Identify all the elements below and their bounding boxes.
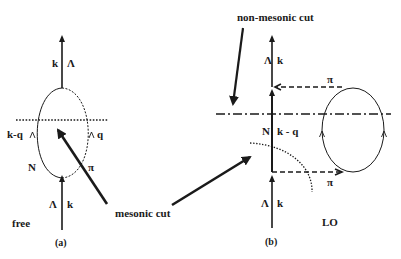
tag-free: free: [12, 217, 30, 229]
label-lambda-bottom: Λ: [49, 198, 57, 210]
label-kq-b: k - q: [277, 125, 299, 137]
arrow-kq-icon: [30, 132, 35, 138]
particle-hole-loop: [322, 88, 384, 172]
label-k-top: k: [52, 57, 59, 69]
panel-b: non-mesonic cut Λ k π N k - q π Λ k LO (…: [216, 11, 391, 248]
non-mesonic-arrow: [233, 28, 243, 104]
label-pi-top: π: [327, 73, 333, 85]
label-lambda-top-b: Λ: [264, 54, 272, 66]
mesonic-arrow-left: [58, 130, 107, 204]
nucleon-propagator: [37, 88, 62, 178]
label-lambda-top: Λ: [67, 57, 75, 69]
label-N: N: [28, 161, 36, 173]
panel-a: k Λ k-q q N π Λ k free (a): [7, 38, 108, 249]
label-pi-bottom: π: [327, 176, 333, 188]
label-non-mesonic-cut: non-mesonic cut: [237, 11, 314, 23]
label-k-bottom-b: k: [277, 197, 284, 209]
mesonic-arrow-right: [172, 157, 250, 205]
arrow-q-icon: [89, 132, 94, 138]
label-k-bottom: k: [67, 198, 74, 210]
mesonic-cut-annotation: mesonic cut: [58, 130, 250, 219]
label-q: q: [97, 128, 104, 140]
caption-b: (b): [265, 236, 277, 248]
label-mesonic-cut: mesonic cut: [115, 207, 171, 219]
label-kq: k-q: [7, 128, 24, 140]
label-N-b: N: [262, 125, 270, 137]
pion-propagator: [62, 88, 88, 178]
label-k-top-b: k: [277, 54, 284, 66]
tag-LO: LO: [322, 216, 338, 228]
feynman-diagram: k Λ k-q q N π Λ k free (a) mesonic cut n…: [0, 0, 401, 259]
caption-a: (a): [55, 237, 67, 249]
label-lambda-bottom-b: Λ: [261, 197, 269, 209]
dotted-curved-cut: [250, 143, 312, 192]
label-pi: π: [88, 161, 94, 173]
